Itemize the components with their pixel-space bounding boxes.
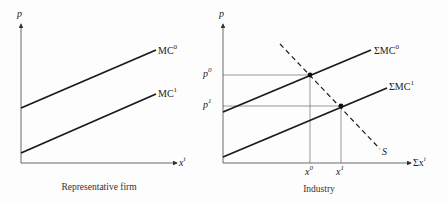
p0-label: p0	[203, 69, 212, 79]
equilibrium-point-1	[339, 104, 344, 109]
left-x-axis-label: xi	[179, 158, 185, 168]
right-y-axis-label: p	[219, 9, 224, 19]
left-panel-caption: Representative firm	[61, 182, 136, 192]
mc0-label: MC0	[158, 46, 177, 56]
right-panel-caption: Industry	[303, 184, 335, 194]
sum-mc0-curve	[223, 50, 371, 112]
sum-mc0-label: ΣMC0	[374, 46, 399, 56]
mc0-curve	[21, 50, 156, 108]
sum-mc1-curve	[223, 88, 387, 157]
right-x-axis-label: Σxi	[413, 158, 426, 168]
supply-label: S	[382, 147, 387, 157]
mc1-curve	[21, 94, 156, 153]
x1-label: x1	[336, 167, 344, 177]
left-panel	[21, 24, 177, 163]
diagram-canvas	[0, 0, 447, 203]
equilibrium-point-0	[308, 73, 313, 78]
x0-label: x0	[305, 167, 313, 177]
sum-mc1-label: ΣMC1	[389, 82, 414, 92]
left-y-axis-label: p	[17, 9, 22, 19]
p1-label: p1	[203, 100, 212, 110]
mc1-label: MC1	[158, 89, 177, 99]
